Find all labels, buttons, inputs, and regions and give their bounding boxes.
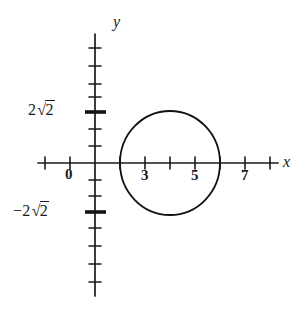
x-axis-label: x [283,153,290,171]
x-tick-label-origin: 0 [65,166,73,183]
x-tick-label-7: 7 [241,167,249,184]
y-tick-label-2sqrt2-radicand: 2 [45,100,54,118]
radical-sign-positive: √2 [36,101,54,119]
y-tick-label-2sqrt2: 2√2 [28,101,55,119]
x-tick-label-3: 3 [141,167,149,184]
y-tick-label-2sqrt2-coefficient: 2 [28,101,36,118]
axes-group [38,34,278,296]
radical-sign-negative: √2 [31,202,49,220]
y-tick-label-neg-2sqrt2-coefficient: −2 [13,202,31,219]
graph-canvas [0,0,303,316]
y-tick-label-neg-2sqrt2: −2√2 [13,202,49,220]
x-tick-label-5: 5 [191,167,199,184]
y-axis-label: y [113,13,120,31]
y-tick-label-neg-2sqrt2-radicand: 2 [40,201,49,219]
